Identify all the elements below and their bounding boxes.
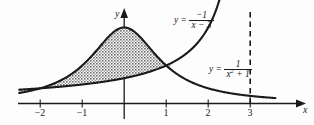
figure-canvas: y = −1 x − 3 y = 1 x2 + 1 y x −2 −1 1 2 … — [0, 0, 314, 125]
x-tick-label--2: −2 — [30, 108, 50, 118]
curve-label-bell: y = 1 x2 + 1 — [209, 60, 252, 80]
x-tick-label-2: 2 — [201, 108, 215, 118]
graph-svg — [0, 0, 314, 125]
y-axis-arrowhead — [120, 8, 128, 18]
curve-label-rational: y = −1 x − 3 — [174, 11, 214, 31]
x-tick-label-3: 3 — [243, 108, 257, 118]
curve-label-rational-numerator: −1 — [189, 11, 213, 21]
x-axis-label: x — [303, 105, 307, 115]
curve-label-bell-lead: y = — [209, 64, 222, 74]
curve-label-rational-lead: y = — [174, 15, 187, 25]
y-axis-label: y — [115, 9, 119, 19]
curve-label-rational-denominator: x − 3 — [189, 20, 213, 31]
curve-label-bell-denominator: x2 + 1 — [224, 69, 251, 80]
curve-label-bell-fraction: 1 x2 + 1 — [224, 60, 251, 80]
curve-label-bell-den-rest: + 1 — [234, 69, 250, 79]
curve-label-rational-fraction: −1 x − 3 — [189, 11, 213, 31]
x-tick-label-1: 1 — [159, 108, 173, 118]
curve-label-bell-numerator: 1 — [224, 60, 251, 70]
x-tick-label--1: −1 — [72, 108, 92, 118]
